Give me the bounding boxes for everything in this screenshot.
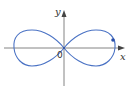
x-axis-label: x: [120, 52, 126, 62]
origin-label: 0: [57, 51, 63, 60]
curve-point: [111, 38, 115, 42]
lemniscate-figure: y x 0: [0, 0, 132, 89]
origin-point: [63, 47, 65, 49]
y-axis-label: y: [55, 7, 61, 17]
plot-canvas: [0, 0, 132, 89]
x-axis-arrow-icon: [118, 46, 125, 51]
y-axis-arrow-icon: [62, 10, 67, 17]
